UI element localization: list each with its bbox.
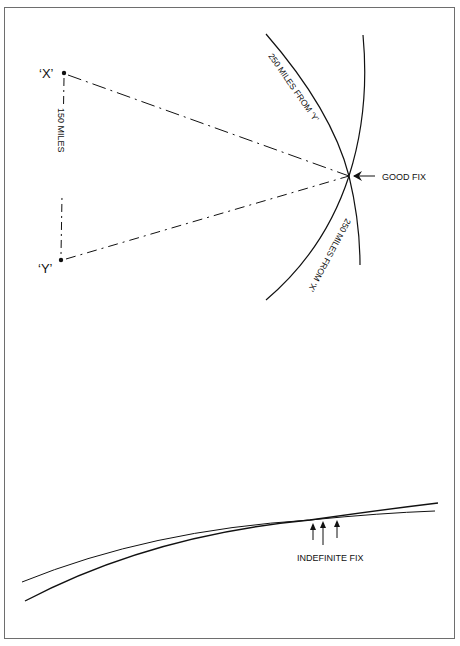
arc-from-y-label: 250 MILES FROM ‘Y’ <box>266 51 321 123</box>
good-fix-arrow-icon <box>353 171 375 181</box>
point-y-label: ‘Y’ <box>38 261 53 276</box>
diagram-canvas: 150 MILES ‘X’ ‘Y’ 250 MILES FROM ‘Y’ 250… <box>0 0 460 646</box>
good-fix-section: 150 MILES ‘X’ ‘Y’ 250 MILES FROM ‘Y’ 250… <box>38 34 426 300</box>
good-fix-label: GOOD FIX <box>382 172 426 182</box>
point-y <box>59 258 63 262</box>
bearing-line-y <box>66 176 349 259</box>
position-line-upper <box>22 511 435 582</box>
point-x-label: ‘X’ <box>39 66 54 81</box>
indefinite-fix-section: INDEFINITE FIX <box>22 503 438 601</box>
arc-from-x-label: 250 MILES FROM ‘X’ <box>306 217 353 294</box>
indefinite-fix-label: INDEFINITE FIX <box>297 553 364 563</box>
indefinite-fix-arrows-icon <box>310 520 340 545</box>
point-x <box>62 71 66 75</box>
position-line-lower <box>25 503 438 601</box>
bearing-line-x <box>68 75 349 176</box>
baseline-label: 150 MILES <box>56 108 66 153</box>
